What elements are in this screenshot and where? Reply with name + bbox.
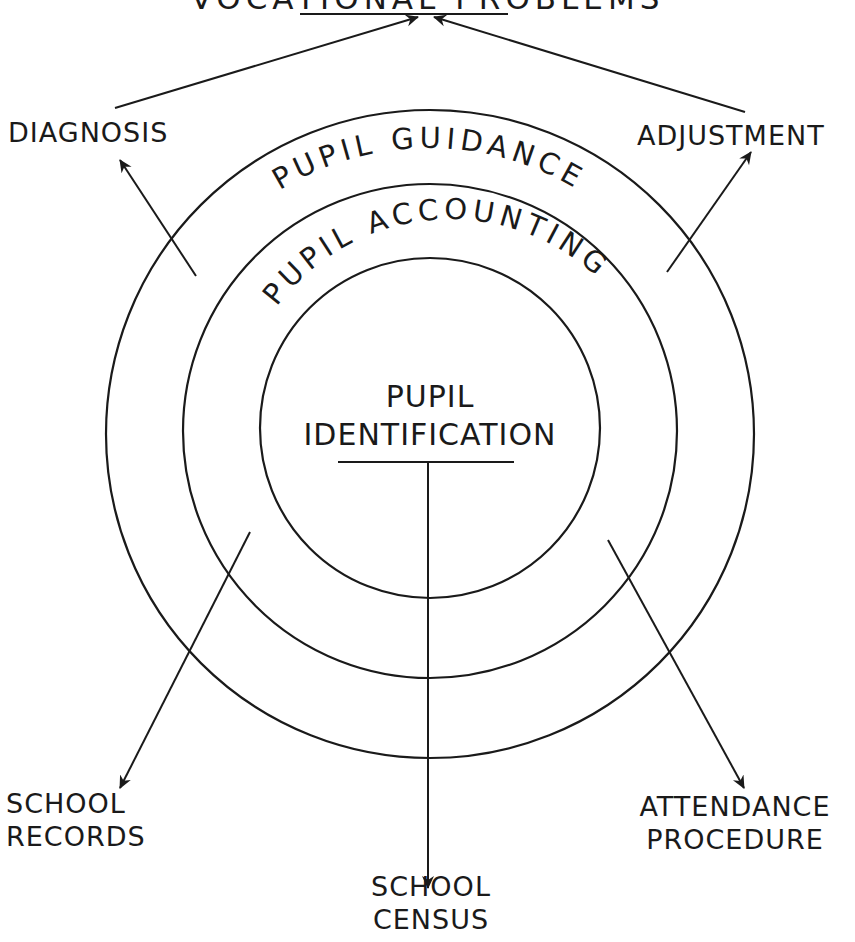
pupil-accounting-label: PUPIL ACCOUNTING <box>256 192 618 311</box>
school-records-label: SCHOOL RECORDS <box>6 787 146 853</box>
diagnosis-to-title-arrow <box>115 17 418 108</box>
attendance-line1: ATTENDANCE <box>615 790 855 823</box>
diagnosis-label: DIAGNOSIS <box>8 116 168 149</box>
attendance-procedure-arrow <box>608 540 744 788</box>
school-census-line1: SCHOOL <box>346 870 516 903</box>
school-records-line2: RECORDS <box>6 820 146 853</box>
school-records-line1: SCHOOL <box>6 787 146 820</box>
core-label-line2: IDENTIFICATION <box>270 416 590 454</box>
adjustment-to-title-arrow <box>434 17 745 112</box>
school-census-label: SCHOOL CENSUS <box>346 870 516 936</box>
attendance-procedure-label: ATTENDANCE PROCEDURE <box>615 790 855 856</box>
pupil-identification-label: PUPIL IDENTIFICATION <box>270 378 590 454</box>
school-records-arrow <box>120 532 250 788</box>
school-census-line2: CENSUS <box>346 903 516 936</box>
adjustment-arrow <box>667 152 751 272</box>
core-label-line1: PUPIL <box>270 378 590 416</box>
adjustment-label: ADJUSTMENT <box>637 119 825 152</box>
attendance-line2: PROCEDURE <box>615 823 855 856</box>
